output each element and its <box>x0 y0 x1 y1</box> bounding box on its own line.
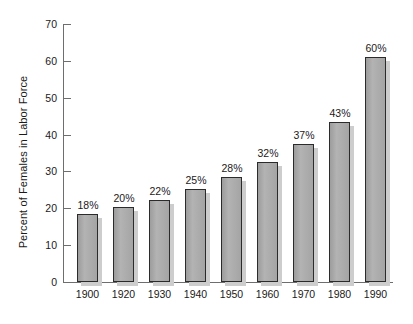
y-tick-mark <box>64 98 71 99</box>
y-tick-label: 30 <box>31 165 57 177</box>
bar-value-label: 43% <box>320 107 360 119</box>
bar-value-label: 22% <box>140 185 180 197</box>
bar-rect <box>293 144 314 282</box>
y-tick-mark <box>64 135 71 136</box>
bar-value-label: 37% <box>284 129 324 141</box>
y-tick-mark <box>64 282 71 283</box>
bar-chart-figure: Percent of Females in Labor Force 010203… <box>0 0 413 324</box>
bar-rect <box>329 122 350 282</box>
bar-value-label: 25% <box>176 174 216 186</box>
y-tick-mark <box>64 61 71 62</box>
bar-value-label: 20% <box>104 192 144 204</box>
bar-value-label: 60% <box>356 42 396 54</box>
y-tick-mark <box>64 24 71 25</box>
bar-rect <box>149 200 170 282</box>
y-tick-label: 20 <box>31 202 57 214</box>
y-tick-label: 40 <box>31 129 57 141</box>
bar-rect <box>257 162 278 282</box>
bar-value-label: 28% <box>212 162 252 174</box>
bar-value-label: 32% <box>248 147 288 159</box>
y-tick-label: 10 <box>31 239 57 251</box>
y-tick-mark <box>64 245 71 246</box>
bar-rect <box>221 177 242 282</box>
x-tick-label: 1990 <box>354 288 398 300</box>
y-tick-label: 70 <box>31 18 57 30</box>
y-tick-label: 60 <box>31 55 57 67</box>
bar-rect <box>77 214 98 282</box>
bar-rect <box>185 189 206 282</box>
y-tick-label: 50 <box>31 92 57 104</box>
y-axis-line <box>63 24 64 282</box>
plot-area: 18%20%22%25%28%32%37%43%60% 190019201930… <box>63 24 393 282</box>
bar-value-label: 18% <box>68 199 108 211</box>
y-tick-mark <box>64 171 71 172</box>
bar-rect <box>365 57 386 282</box>
y-tick-label: 0 <box>31 276 57 288</box>
bar-rect <box>113 207 134 282</box>
